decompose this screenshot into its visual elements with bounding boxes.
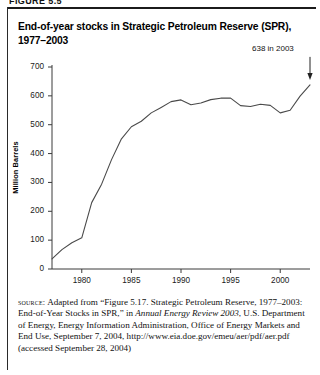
y-tick-label: 300: [18, 178, 44, 186]
y-tick-label: 500: [18, 121, 44, 129]
source-italic-title: Annual Energy Review 2003: [135, 308, 238, 318]
y-tick-label: 100: [18, 236, 44, 244]
x-tick-label: 1995: [214, 276, 248, 285]
chart-plot-area: Million Barrels 0100200300400500600700 1…: [0, 55, 320, 295]
y-tick-label: 600: [18, 92, 44, 100]
y-tick-label: 700: [18, 63, 44, 71]
x-tick-label: 1990: [164, 276, 198, 285]
annotation-arrow: [307, 57, 312, 80]
x-tick-label: 1980: [65, 276, 99, 285]
figure-number-header: FIGURE 5.5: [9, 0, 129, 4]
y-tick-label: 400: [18, 150, 44, 158]
annotation-text: 638 in 2003: [252, 44, 294, 53]
chart-tick-marks: [48, 67, 280, 273]
y-tick-label: 0: [18, 265, 44, 273]
figure-container: FIGURE 5.5 End-of-year stocks in Strateg…: [0, 0, 320, 375]
x-tick-label: 2000: [263, 276, 297, 285]
x-tick-label: 1985: [114, 276, 148, 285]
line-chart-svg: [0, 55, 320, 295]
y-tick-label: 200: [18, 207, 44, 215]
top-rule: [7, 7, 316, 9]
data-line-series: [52, 85, 310, 259]
chart-title-line1: End-of-year stocks in Strategic Petroleu…: [18, 21, 291, 32]
source-label: source:: [18, 298, 45, 307]
chart-axes: [52, 65, 310, 269]
source-citation: source: Adapted from “Figure 5.17. Strat…: [18, 297, 306, 354]
